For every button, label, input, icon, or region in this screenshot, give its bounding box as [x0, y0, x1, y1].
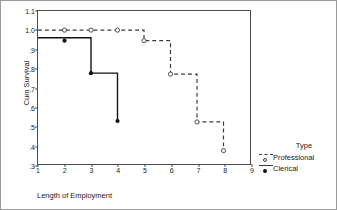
series-professional — [38, 28, 226, 153]
data-point-marker — [62, 28, 66, 32]
series-clerical — [38, 38, 120, 123]
legend-entries: ProfessionalClerical — [259, 152, 335, 174]
y-tick-mark — [35, 11, 38, 12]
data-point-marker — [142, 39, 146, 43]
x-tick-mark — [252, 164, 253, 167]
legend-item-professional[interactable]: Professional — [259, 152, 335, 163]
survival-chart-figure: .3.4.5.6.7.8.91.01.1 123456789 Cum Survi… — [0, 0, 337, 210]
legend-item-label: Professional — [273, 152, 314, 163]
x-tick-mark — [38, 164, 39, 167]
x-tick-mark — [198, 164, 199, 167]
dashed-line-icon — [259, 154, 273, 155]
data-point-marker — [115, 28, 119, 32]
data-point-marker — [89, 28, 93, 32]
x-axis-title: Length of Employment — [37, 191, 112, 200]
legend: Type ProfessionalClerical — [259, 141, 335, 174]
series-line — [38, 30, 224, 150]
data-point-marker — [195, 120, 199, 124]
series-line — [38, 38, 118, 121]
x-tick-mark — [118, 164, 119, 167]
data-point-marker — [221, 149, 225, 153]
data-point-marker — [62, 39, 66, 43]
legend-key-icon — [259, 163, 273, 174]
solid-line-icon — [259, 165, 273, 166]
data-point-marker — [115, 119, 119, 123]
x-tick-mark — [64, 164, 65, 167]
y-tick-mark — [35, 49, 38, 50]
x-tick-mark — [145, 164, 146, 167]
y-tick-mark — [35, 30, 38, 31]
legend-item-label: Clerical — [273, 163, 298, 174]
x-tick-label: 9 — [250, 167, 254, 174]
plot-area: .3.4.5.6.7.8.91.01.1 123456789 — [37, 10, 251, 165]
y-tick-mark — [35, 69, 38, 70]
x-tick-label: 6 — [170, 167, 174, 174]
x-tick-label: 2 — [63, 167, 67, 174]
legend-key-icon — [259, 152, 273, 163]
x-tick-mark — [225, 164, 226, 167]
x-tick-label: 5 — [143, 167, 147, 174]
y-tick-mark — [35, 127, 38, 128]
x-tick-label: 7 — [197, 167, 201, 174]
y-tick-mark — [35, 88, 38, 89]
data-point-marker — [89, 71, 93, 75]
x-tick-mark — [171, 164, 172, 167]
x-tick-label: 3 — [90, 167, 94, 174]
y-tick-label: 1.0 — [25, 27, 35, 34]
x-tick-label: 1 — [36, 167, 40, 174]
legend-item-clerical[interactable]: Clerical — [259, 163, 335, 174]
x-tick-mark — [91, 164, 92, 167]
y-tick-label: 1.1 — [25, 8, 35, 15]
legend-title: Type — [273, 141, 335, 150]
x-tick-label: 4 — [116, 167, 120, 174]
x-tick-label: 8 — [223, 167, 227, 174]
filled-circle-icon — [263, 169, 267, 173]
y-axis-title: Cum Survival — [22, 61, 31, 106]
y-tick-mark — [35, 107, 38, 108]
open-circle-icon — [263, 158, 267, 162]
data-point-marker — [168, 72, 172, 76]
plot-canvas — [38, 11, 250, 164]
y-tick-mark — [35, 146, 38, 147]
